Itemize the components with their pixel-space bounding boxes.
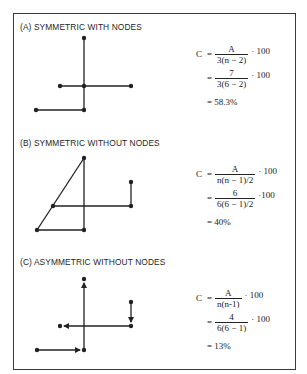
fraction: 4 6(6 − 1) [215,312,248,333]
fraction: A n(n-1) [215,288,242,309]
formula-c-result: = 13% [207,341,231,351]
formula-c: C = A n(n-1) · 100 = 4 6(6 − 1) · 100 = … [196,286,270,358]
